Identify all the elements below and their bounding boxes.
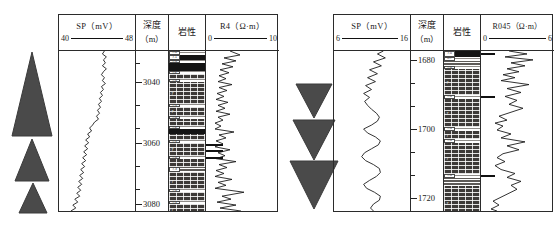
left-resistivity-scale-min: 0 bbox=[208, 34, 212, 44]
right-sp-scale-min: 6 bbox=[336, 34, 340, 44]
left-depth-axis: 3040 3060 3080 bbox=[136, 51, 169, 211]
right-resistivity-header: R045（Ω·m） 0 6 bbox=[481, 15, 554, 51]
depth-tick-minor bbox=[136, 166, 140, 167]
lithology-tag: 7.0 bbox=[444, 139, 455, 143]
right-resistivity-scale: 0 6 bbox=[481, 34, 554, 44]
right-panel-grid: SP（mV） 6 16 深度 （m） 岩性 bbox=[333, 14, 553, 212]
lithology-bed bbox=[444, 99, 480, 127]
lithology-tag: 7.2 bbox=[169, 71, 180, 74]
lithology-bed bbox=[444, 69, 480, 95]
depth-label: 1680 bbox=[418, 55, 435, 65]
left-resistivity-title: R4（Ω·m） bbox=[220, 21, 265, 32]
cycle-triangle-medium-down bbox=[291, 120, 337, 160]
resistivity-spill-bar bbox=[206, 157, 223, 159]
lithology-tag: 7.1 bbox=[169, 104, 180, 107]
lithology-bed bbox=[169, 107, 205, 116]
left-lithology-column: 7.0 7.1 7.3 7.2 7.0 7.1 7.0 7.2 7.1 7.0 … bbox=[169, 51, 206, 211]
depth-tick-major bbox=[136, 82, 142, 83]
depth-tick-major bbox=[136, 204, 142, 205]
lithology-bed bbox=[444, 143, 480, 174]
lithology-tag: 7.0 bbox=[444, 174, 455, 178]
lithology-tag: 7.1 bbox=[169, 201, 180, 204]
lithology-symbol: ·7 bbox=[170, 109, 174, 114]
right-sp-scale-bar bbox=[342, 38, 398, 39]
right-sp-title: SP（mV） bbox=[351, 21, 392, 32]
right-depth-unit: （m） bbox=[415, 34, 440, 45]
lithology-bed bbox=[444, 131, 480, 139]
cycle-triangle-medium-up bbox=[13, 139, 51, 181]
depth-label: 3080 bbox=[143, 199, 160, 209]
well-log-correlation-figure: SP（mV） 40 48 深度 （m） 岩性 bbox=[0, 0, 558, 226]
resistivity-spill-bar bbox=[481, 96, 495, 98]
depth-tick-minor bbox=[136, 105, 140, 106]
lithology-symbol: ·7 bbox=[445, 80, 449, 85]
lithology-symbol: ·7 bbox=[170, 179, 174, 184]
right-depth-title: 深度 bbox=[418, 20, 436, 31]
right-depth-header: 深度 （m） bbox=[411, 15, 444, 51]
resistivity-spill-bar bbox=[481, 53, 495, 55]
right-resistivity-scale-max: 6 bbox=[548, 34, 552, 44]
left-resistivity-scale: 0 10 bbox=[206, 34, 279, 44]
left-sp-header: SP（mV） 40 48 bbox=[59, 15, 136, 51]
left-sp-scale-max: 48 bbox=[125, 34, 133, 44]
left-lithology-title: 岩性 bbox=[178, 27, 196, 38]
depth-label: 1700 bbox=[418, 124, 435, 134]
lithology-bed bbox=[169, 143, 205, 156]
left-panel: SP（mV） 40 48 深度 （m） 岩性 bbox=[58, 14, 278, 212]
depth-label: 3040 bbox=[143, 77, 160, 87]
lithology-bed bbox=[169, 192, 205, 201]
cycle-triangle-large-up bbox=[10, 52, 54, 136]
left-lithology-header: 岩性 bbox=[169, 15, 206, 51]
lithology-bed bbox=[169, 82, 205, 104]
right-sp-header: SP（mV） 6 16 bbox=[334, 15, 411, 51]
lithology-tag: 7.1 bbox=[169, 140, 180, 143]
depth-tick-minor bbox=[411, 106, 415, 107]
lithology-symbol: ·7 bbox=[170, 147, 174, 152]
lithology-bed bbox=[169, 159, 205, 167]
lithology-tag: 7.0 bbox=[169, 116, 180, 119]
left-sp-title: SP（mV） bbox=[76, 21, 117, 32]
depth-label: 1720 bbox=[418, 193, 435, 203]
lithology-tag: 8.7 bbox=[444, 57, 455, 61]
left-depth-title: 深度 bbox=[143, 20, 161, 31]
depth-tick-minor bbox=[136, 63, 140, 64]
right-resistivity-title: R045（Ω·m） bbox=[493, 22, 543, 32]
lithology-tag: 7.0 bbox=[444, 95, 455, 99]
left-cycle-triangles bbox=[0, 0, 60, 226]
cycle-triangle-small-up bbox=[17, 183, 49, 213]
resistivity-spill-bar bbox=[206, 144, 223, 146]
right-sp-scale: 6 16 bbox=[334, 34, 410, 44]
lithology-tag: 7.0 bbox=[169, 79, 180, 82]
right-resistivity-scale-min: 0 bbox=[483, 34, 487, 44]
resistivity-spill-bar bbox=[481, 175, 495, 177]
depth-tick-minor bbox=[411, 152, 415, 153]
left-depth-unit: （m） bbox=[140, 34, 165, 45]
right-lithology-strip: 7.0 8.7 7.0 7.0 7.0 7.0 7.0 ·7 ·7 ·7 ·7 … bbox=[444, 51, 480, 211]
left-lithology-strip: 7.0 7.1 7.3 7.2 7.0 7.1 7.0 7.2 7.1 7.0 … bbox=[169, 51, 205, 211]
depth-tick-minor bbox=[136, 189, 140, 190]
left-sp-scale-bar bbox=[71, 38, 123, 39]
depth-tick-minor bbox=[411, 175, 415, 176]
resistivity-spill-bar bbox=[206, 150, 223, 152]
right-lithology-column: 7.0 8.7 7.0 7.0 7.0 7.0 7.0 ·7 ·7 ·7 ·7 … bbox=[444, 51, 481, 211]
left-sp-scale-min: 40 bbox=[61, 34, 69, 44]
lithology-tag: 7.3 bbox=[169, 167, 180, 172]
left-sp-scale: 40 48 bbox=[59, 34, 135, 44]
right-depth-axis: 1680 1700 1720 bbox=[411, 51, 444, 211]
lithology-symbol: ·7 bbox=[445, 111, 449, 116]
lithology-tag: 7.0 bbox=[169, 156, 180, 159]
depth-tick-major bbox=[411, 60, 417, 61]
lithology-tag: 7.0 bbox=[444, 127, 455, 131]
lithology-bed bbox=[444, 186, 480, 211]
depth-tick-major bbox=[411, 129, 417, 130]
lithology-symbol: ·7 bbox=[170, 91, 174, 96]
lithology-bed bbox=[169, 63, 205, 71]
lithology-bed bbox=[169, 119, 205, 126]
depth-tick-minor bbox=[136, 128, 140, 129]
depth-tick-minor bbox=[411, 83, 415, 84]
lithology-tag: 7.3 bbox=[169, 60, 180, 63]
lithology-bed bbox=[444, 178, 480, 186]
right-sp-scale-max: 16 bbox=[400, 34, 408, 44]
lithology-symbol: ·7 bbox=[445, 156, 449, 161]
right-sp-track bbox=[334, 51, 411, 211]
